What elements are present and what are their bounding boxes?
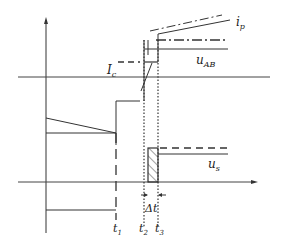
t1-label: t1 <box>113 222 122 237</box>
hatched-pulse <box>148 148 158 182</box>
t3-label: t3 <box>155 222 164 237</box>
uab-label: uAB <box>196 53 216 69</box>
lower-axis-arrow-icon <box>251 180 258 184</box>
decay-line <box>46 118 116 133</box>
uab-waveform-step <box>116 101 140 145</box>
t2-label: t2 <box>139 222 148 237</box>
ip-label: ip <box>236 15 245 31</box>
dt-arrow-left-head-icon <box>144 193 148 197</box>
ic-label: Ic <box>106 63 117 79</box>
delta-t-label: Δt <box>144 202 158 215</box>
vertical-axis-arrow-icon <box>44 17 48 24</box>
us-label: us <box>208 157 220 173</box>
waveform-diagram: ip uAB Ic us t1 t2 t3 Δt <box>0 0 281 249</box>
dt-arrow-right-head-icon <box>158 193 162 197</box>
